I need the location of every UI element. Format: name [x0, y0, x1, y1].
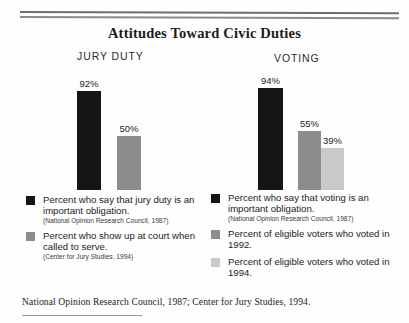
legend-item-citation: (Center for Jury Studies, 1994): [43, 253, 206, 261]
chart-page: Attitudes Toward Civic Duties JURY DUTY …: [0, 0, 409, 323]
source-note: National Opinion Research Council, 1987;…: [22, 296, 402, 307]
bar-value-label: 50%: [119, 123, 138, 134]
bar-column: [321, 148, 344, 190]
legend-item-label: Percent who say that jury duty is an imp…: [43, 194, 206, 217]
bar-column: [298, 131, 321, 190]
bar-voting-39: 39%: [321, 8, 344, 190]
bar-column: [117, 136, 141, 190]
legend-item-label: Percent of eligible voters who voted in …: [228, 228, 401, 251]
legend-item: Percent who say that jury duty is an imp…: [26, 194, 206, 225]
bar-column: [77, 91, 101, 190]
bar-column: [258, 88, 283, 190]
bar-voting-55: 55%: [298, 8, 321, 190]
legend-voting: Percent who say that voting is an import…: [211, 192, 401, 283]
legend-item: Percent who show up at court when called…: [26, 230, 206, 261]
legend-item: Percent of eligible voters who voted in …: [211, 228, 401, 251]
bar-voting-94: 94%: [258, 8, 283, 190]
legend-swatch-icon: [211, 230, 220, 239]
legend-swatch-icon: [26, 232, 35, 241]
legend-item-label: Percent of eligible voters who voted in …: [228, 256, 401, 279]
bar-value-label: 92%: [79, 78, 98, 89]
bottom-rule: [22, 315, 142, 316]
bar-jury-duty-50: 50%: [117, 8, 141, 190]
bar-jury-duty-92: 92%: [77, 8, 101, 190]
legend-jury-duty: Percent who say that jury duty is an imp…: [26, 194, 206, 266]
legend-item: Percent who say that voting is an import…: [211, 192, 401, 223]
legend-item: Percent of eligible voters who voted in …: [211, 256, 401, 279]
legend-item-citation: (National Opinion Research Council, 1987…: [43, 217, 206, 225]
legend-item-citation: (National Opinion Research Council, 1987…: [228, 215, 401, 223]
bar-value-label: 55%: [300, 118, 319, 129]
legend-item-label: Percent who show up at court when called…: [43, 230, 206, 253]
bar-value-label: 94%: [261, 75, 280, 86]
legend-swatch-icon: [26, 196, 35, 205]
plot-area: 92% 50% 94% 55% 39%: [0, 0, 409, 190]
legend-item-label: Percent who say that voting is an import…: [228, 192, 401, 215]
legend-swatch-icon: [211, 258, 220, 267]
bar-value-label: 39%: [323, 135, 342, 146]
legend-swatch-icon: [211, 194, 220, 203]
